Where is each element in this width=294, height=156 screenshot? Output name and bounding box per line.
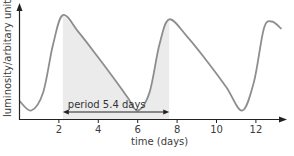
x-axis-title: time (days) [131, 136, 188, 147]
x-tick-label: 4 [95, 124, 101, 135]
x-ticks: 24681012 [56, 119, 263, 135]
x-tick-label: 2 [56, 124, 62, 135]
y-axis-arrow-icon [17, 3, 23, 11]
luminosity-chart: period 5.4 days 24681012 luminosity/arbi… [0, 0, 294, 156]
x-tick-label: 12 [250, 124, 263, 135]
x-tick-label: 8 [174, 124, 180, 135]
y-axis-title: luminosity/arbitary units [2, 0, 13, 117]
x-tick-label: 6 [135, 124, 141, 135]
x-axis-arrow-icon [279, 117, 287, 123]
period-label: period 5.4 days [68, 99, 146, 110]
x-tick-label: 10 [210, 124, 223, 135]
